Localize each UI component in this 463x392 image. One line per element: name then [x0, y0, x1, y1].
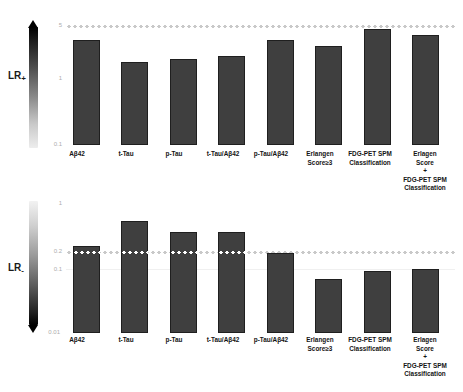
reference-line-0-2-overlay-3: [170, 251, 197, 254]
xlabel-line: FDG-PET SPM: [389, 176, 461, 185]
xlabel-line: FDG-PET SPM: [389, 362, 461, 371]
gradient-strip: [29, 27, 38, 148]
bar-p-tau: [170, 59, 197, 145]
reference-line-0-2-overlay-1: [73, 251, 100, 254]
xlabel-combined: Erlagen Score + FDG-PET SPM Classificati…: [389, 336, 461, 379]
chart-lr-negative: LR- 1 0.2 0.1 0.01 Aβ42 t-Tau p-Tau t-Ta…: [0, 186, 463, 392]
ytick-top-5: 5: [40, 22, 62, 28]
xlabel-line: +: [389, 353, 461, 362]
bar-erlangen-score: [315, 46, 342, 145]
lr-negative-axis-label-sub: -: [21, 266, 24, 275]
lr-negative-axis-label-base: LR: [8, 262, 21, 273]
gradient-strip: [29, 201, 38, 325]
ytick-top-0-1: 0.1: [40, 141, 62, 147]
bar-combined: [412, 35, 439, 145]
bar-p-tau-abeta42: [267, 253, 294, 333]
ytick-bottom-0-2: 0.2: [40, 248, 62, 254]
xlabel-line: Score: [389, 159, 461, 168]
bar-fdg-pet-spm: [364, 29, 391, 145]
arrow-down-icon: [28, 325, 38, 333]
bar-t-tau: [121, 221, 148, 333]
bar-abeta42: [73, 246, 100, 333]
lr-negative-axis-label: LR-: [8, 262, 24, 275]
ytick-bottom-1: 1: [40, 200, 62, 206]
bar-t-tau-abeta42: [218, 232, 245, 333]
bar-p-tau-abeta42: [267, 40, 294, 145]
ytick-bottom-0-01: 0.01: [38, 329, 60, 335]
reference-line-0-2-overlay-4: [218, 251, 245, 254]
bar-fdg-pet-spm: [364, 271, 391, 333]
xlabel-line: Erlagen: [389, 336, 461, 345]
xlabel-line: +: [389, 167, 461, 176]
xlabel-line: Score: [389, 345, 461, 354]
lr-negative-plot-area: [66, 203, 455, 333]
ytick-top-1: 1: [40, 75, 62, 81]
bar-combined: [412, 269, 439, 333]
bar-abeta42: [73, 40, 100, 145]
reference-line-0-2-overlay-2: [121, 251, 148, 254]
lr-negative-gradient-axis: [29, 201, 38, 333]
lr-positive-axis-label-sub: +: [21, 74, 26, 83]
bar-p-tau: [170, 232, 197, 333]
lr-positive-axis-label-base: LR: [8, 70, 21, 81]
lr-positive-plot-area: [66, 25, 455, 145]
ytick-bottom-0-1: 0.1: [40, 266, 62, 272]
bar-erlangen-score: [315, 279, 342, 333]
chart-lr-positive: LR+ 5 1 0.1 Aβ42 t-Tau p-Tau t-Tau/Aβ42 …: [0, 0, 463, 196]
lr-positive-axis-label: LR+: [8, 70, 26, 83]
bar-t-tau-abeta42: [218, 56, 245, 145]
xlabel-line: Erlagen: [389, 150, 461, 159]
lr-positive-gradient-axis: [29, 20, 38, 148]
bar-t-tau: [121, 62, 148, 145]
xlabel-line: Classification: [389, 370, 461, 379]
